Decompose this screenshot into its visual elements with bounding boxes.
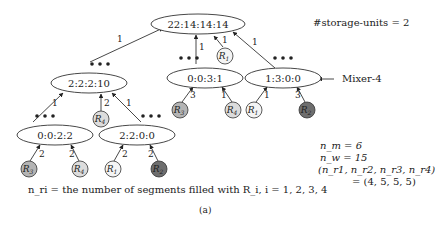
figure-caption: (a) (199, 205, 211, 215)
svg-text:1: 1 (52, 98, 58, 108)
edge-l1left-root (90, 28, 163, 62)
svg-text:3: 3 (295, 90, 301, 100)
node-l1-right-label: 1:3:0:0 (265, 73, 301, 84)
svg-text:2: 2 (39, 149, 45, 159)
legend-text: n_ri = the number of segments filled wit… (28, 184, 327, 195)
svg-text:2: 2 (122, 149, 128, 159)
mixer-label: Mixer-4 (342, 73, 382, 84)
node-l1-left-label: 2:2:2:10 (68, 78, 110, 89)
stat-nm: n_m = 6 (320, 140, 362, 151)
svg-text:1: 1 (126, 98, 132, 108)
svg-text:1: 1 (221, 90, 227, 100)
svg-text:2: 2 (69, 149, 75, 159)
node-l2-right-label: 2:2:0:0 (119, 130, 155, 141)
svg-text:1: 1 (117, 34, 123, 44)
svg-text:1: 1 (199, 42, 205, 52)
stat-nw: n_w = 15 (320, 152, 367, 163)
stat-tuple: (n_r1, n_r2, n_r3, n_r4) (318, 164, 435, 175)
stat-tuple-value: = (4, 5, 5, 5) (352, 176, 416, 187)
node-l2-left-label: 0:0:2:2 (37, 130, 73, 141)
svg-text:1: 1 (252, 37, 258, 47)
storage-units-label: #storage-units = 2 (313, 17, 409, 28)
node-root-label: 22:14:14:14 (167, 19, 228, 30)
node-l1-mid-label: 0:0:3:1 (187, 73, 223, 84)
svg-text:2: 2 (104, 98, 110, 108)
svg-text:1: 1 (222, 35, 228, 45)
svg-text:2: 2 (148, 149, 154, 159)
svg-text:3: 3 (190, 90, 196, 100)
svg-text:1: 1 (264, 90, 270, 100)
